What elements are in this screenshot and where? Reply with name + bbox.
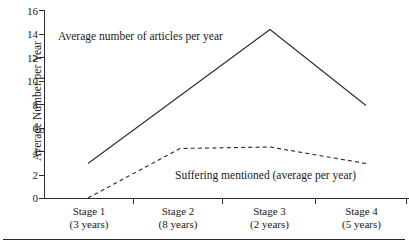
- stage-2-name: Stage 2: [133, 205, 223, 218]
- stage-3-duration: (2 years): [223, 218, 316, 231]
- x-tick-label-stage-2: Stage 2 (8 years): [133, 205, 223, 231]
- annotation-suffering-series: Suffering mentioned (average per year): [175, 169, 356, 182]
- stage-3-name: Stage 3: [223, 205, 316, 218]
- chart-figure: Average Number per Year 16 14 12 10 8 6 …: [0, 0, 409, 249]
- stage-4-duration: (5 years): [316, 218, 407, 231]
- series-articles-line: [88, 30, 366, 164]
- annotation-articles-series: Average number of articles per year: [58, 30, 223, 43]
- stage-4-name: Stage 4: [316, 205, 407, 218]
- bottom-rule-divider: [3, 239, 405, 240]
- x-tick-label-stage-3: Stage 3 (2 years): [223, 205, 316, 231]
- stage-1-name: Stage 1: [44, 205, 134, 218]
- stage-2-duration: (8 years): [133, 218, 223, 231]
- stage-1-duration: (3 years): [44, 218, 134, 231]
- x-tick-label-stage-1: Stage 1 (3 years): [44, 205, 134, 231]
- x-tick-label-stage-4: Stage 4 (5 years): [316, 205, 407, 231]
